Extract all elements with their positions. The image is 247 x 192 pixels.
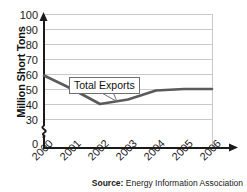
source-text: Energy Information Association <box>126 178 243 188</box>
x-tick-label: 2001 <box>58 138 83 163</box>
x-tick-label: 2005 <box>170 138 195 163</box>
source-note: Source: Energy Information Association <box>0 178 243 188</box>
x-tick-label: 2006 <box>198 138 223 163</box>
x-tick-label: 2004 <box>142 138 167 163</box>
x-tick-label: 2000 <box>30 138 55 163</box>
x-tick-label: 2003 <box>114 138 139 163</box>
x-tick-label: 2002 <box>86 138 111 163</box>
source-label: Source: <box>92 178 124 188</box>
x-axis-tick-labels: 2000 2001 2002 2003 2004 2005 2006 <box>0 0 247 192</box>
chart-container: Million Short Tons 100 90 80 70 60 50 40… <box>0 0 247 192</box>
